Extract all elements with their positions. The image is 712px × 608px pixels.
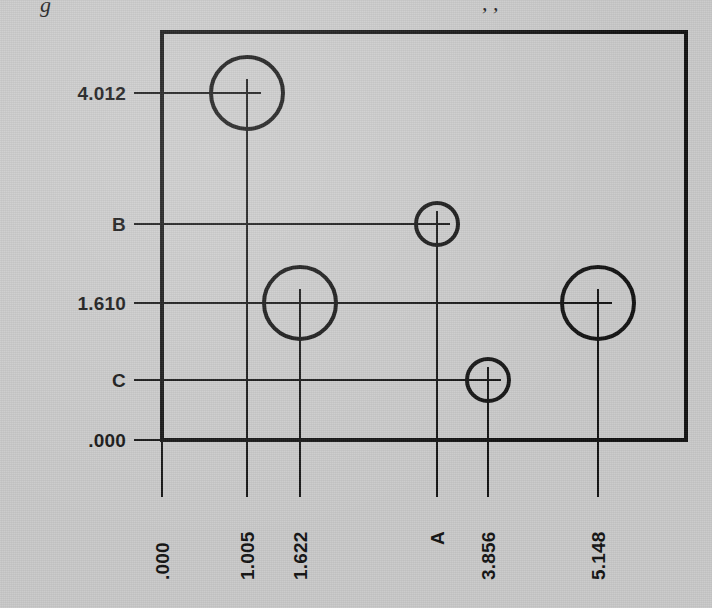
x-extension-lines xyxy=(162,93,598,497)
center-mark-group xyxy=(233,79,612,393)
center-mark-5 xyxy=(475,367,501,393)
center-mark-3 xyxy=(286,289,314,317)
clipped-title-fragment-left: g xyxy=(40,0,51,17)
y-dim-label-c: C xyxy=(112,370,126,391)
x-dim-label-1005: 1.005 xyxy=(237,531,258,580)
y-dimension-labels: 4.012 B 1.610 C .000 xyxy=(77,83,126,451)
x-dimension-labels: .000 1.005 1.622 A 3.856 5.148 xyxy=(152,531,609,580)
center-mark-2 xyxy=(424,211,450,237)
drawing-svg: g , , xyxy=(0,0,712,608)
y-dim-label-b: B xyxy=(112,214,126,235)
center-mark-4 xyxy=(584,289,612,317)
y-extension-lines xyxy=(134,93,598,440)
y-dim-label-4012: 4.012 xyxy=(77,83,126,104)
hole-group xyxy=(211,57,634,401)
clipped-title-fragment-right: , , xyxy=(482,0,499,15)
x-dim-label-000: .000 xyxy=(152,542,173,580)
x-dim-label-a: A xyxy=(427,531,448,545)
y-dim-label-1610: 1.610 xyxy=(77,293,126,314)
x-dim-label-1622: 1.622 xyxy=(290,531,311,580)
center-mark-1 xyxy=(233,79,261,107)
engineering-drawing-canvas: g , , xyxy=(0,0,712,608)
x-dim-label-3856: 3.856 xyxy=(478,531,499,580)
x-dim-label-5148: 5.148 xyxy=(588,531,609,580)
y-dim-label-000: .000 xyxy=(88,430,126,451)
